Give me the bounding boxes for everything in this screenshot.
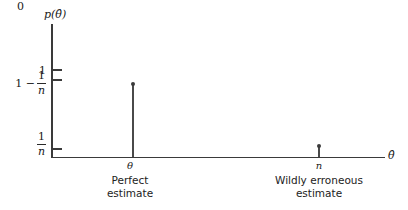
x-tick-label-theta: θ (60, 160, 200, 171)
y-tick-label-one-over-n: 1 n (22, 131, 46, 157)
y-tick-label-one-minus-one-over-n: 1 − 1 n (6, 70, 46, 96)
y-axis-line (51, 24, 53, 158)
x-annotation-erroneous-estimate: n Wildly erroneous estimate (249, 160, 389, 200)
fraction-numerator: 1 (37, 131, 46, 143)
y-tick-mark-one-over-n (51, 148, 62, 150)
x-axis-line (51, 157, 385, 159)
fraction-one-over-n-lower: 1 n (37, 131, 46, 157)
estimator-pmf-figure: p(θ̂) θ̂ 1 1 − 1 n 1 n 0 θ Perfect estim… (0, 0, 408, 210)
y-tick-mark-one (51, 69, 62, 71)
x-annotation-caption-line1: Wildly erroneous (249, 174, 389, 187)
fraction-denominator: n (37, 146, 46, 158)
y-axis-title: p(θ̂) (44, 9, 66, 20)
origin-label: 0 (0, 0, 24, 13)
y-tick-mark-one-minus-one-over-n (51, 79, 62, 81)
impulse-dot-perfect-estimate (131, 82, 135, 86)
fraction-denominator: n (37, 85, 46, 97)
x-annotation-caption-line1: Perfect (60, 174, 200, 187)
fraction-one-over-n-upper: 1 n (37, 70, 46, 96)
impulse-stem-perfect-estimate (132, 84, 134, 157)
impulse-dot-erroneous-estimate (317, 144, 321, 148)
x-tick-label-n: n (249, 160, 389, 171)
y-tick-label-lead-term: 1 − (15, 77, 35, 90)
x-annotation-caption-line2: estimate (60, 187, 200, 200)
x-annotation-caption-line2: estimate (249, 187, 389, 200)
x-annotation-perfect-estimate: θ Perfect estimate (60, 160, 200, 200)
fraction-numerator: 1 (37, 70, 46, 82)
